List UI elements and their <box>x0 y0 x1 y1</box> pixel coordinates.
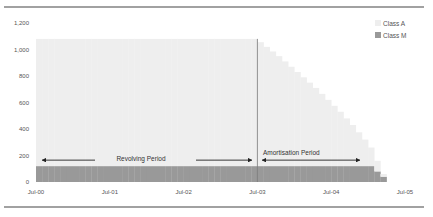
x-tick-label: Jul-04 <box>323 189 340 195</box>
bar-class-m <box>264 166 270 182</box>
bar-class-m <box>362 166 368 182</box>
bar-class-a <box>251 39 257 166</box>
bar-class-a <box>202 39 208 166</box>
bar-class-a <box>116 39 122 166</box>
bar-class-m <box>165 166 171 182</box>
bar-class-m <box>227 166 233 182</box>
bar-class-m <box>368 166 374 182</box>
y-tick-label: 800 <box>19 73 30 79</box>
bar-class-m <box>257 166 263 182</box>
bar-class-m <box>245 166 251 182</box>
bar-class-a <box>368 148 374 167</box>
bar-class-a <box>128 39 134 166</box>
amortisation-period-label: Amortisation Period <box>263 149 320 156</box>
bar-class-a <box>325 100 331 166</box>
bar-class-a <box>141 39 147 166</box>
x-tick-label: Jul-01 <box>102 189 119 195</box>
bar-class-a <box>239 39 245 166</box>
bar-class-m <box>171 166 177 182</box>
bar-class-a <box>98 39 104 166</box>
bar-class-m <box>288 166 294 182</box>
bar-class-a <box>184 39 190 166</box>
bar-class-a <box>196 39 202 166</box>
bar-class-m <box>116 166 122 182</box>
bar-class-m <box>319 166 325 182</box>
bar-class-m <box>36 166 42 182</box>
y-axis: 02004006008001,0001,200 <box>14 20 30 185</box>
bar-class-m <box>141 166 147 182</box>
bar-class-a <box>122 39 128 166</box>
legend-swatch-class-m <box>375 32 381 38</box>
y-tick-label: 400 <box>19 126 30 132</box>
y-tick-label: 0 <box>26 179 30 185</box>
bar-class-m <box>147 166 153 182</box>
x-tick-label: Jul-02 <box>175 189 192 195</box>
x-tick-label: Jul-03 <box>249 189 266 195</box>
bar-class-a <box>159 39 165 166</box>
bar-class-m <box>196 166 202 182</box>
bar-class-m <box>214 166 220 182</box>
bar-class-a <box>54 39 60 166</box>
bar-class-m <box>98 166 104 182</box>
y-tick-label: 1,200 <box>14 20 30 26</box>
revolving-period-label: Revolving Period <box>116 155 166 163</box>
bar-class-a <box>61 39 67 166</box>
bar-class-m <box>54 166 60 182</box>
bar-class-a <box>67 39 73 166</box>
y-tick-label: 200 <box>19 153 30 159</box>
legend-swatch-class-a <box>375 20 381 26</box>
bar-class-a <box>73 39 79 166</box>
bar-class-m <box>251 166 257 182</box>
bar-class-m <box>374 171 380 182</box>
bar-class-a <box>380 174 386 177</box>
bar-class-a <box>177 39 183 166</box>
bar-class-m <box>128 166 134 182</box>
y-tick-label: 1,000 <box>14 47 30 53</box>
bar-class-a <box>171 39 177 166</box>
bar-class-m <box>356 166 362 182</box>
bar-class-a <box>245 39 251 166</box>
bar-class-a <box>214 39 220 166</box>
bar-class-m <box>380 177 386 182</box>
bar-class-a <box>165 39 171 166</box>
bar-class-a <box>319 94 325 166</box>
bar-class-m <box>337 166 343 182</box>
bar-class-m <box>294 166 300 182</box>
bar-class-m <box>184 166 190 182</box>
bar-class-m <box>61 166 67 182</box>
y-tick-label: 600 <box>19 100 30 106</box>
legend-label-class-a: Class A <box>383 20 406 27</box>
bar-class-m <box>73 166 79 182</box>
bar-class-m <box>122 166 128 182</box>
bar-class-m <box>104 166 110 182</box>
bar-class-m <box>208 166 214 182</box>
bar-class-m <box>276 166 282 182</box>
x-tick-label: Jul-00 <box>28 189 45 195</box>
bar-class-m <box>239 166 245 182</box>
bar-class-m <box>313 166 319 182</box>
bar-class-a <box>356 132 362 166</box>
bar-class-m <box>233 166 239 182</box>
bar-class-m <box>159 166 165 182</box>
bar-class-m <box>91 166 97 182</box>
bar-class-a <box>48 39 54 166</box>
legend: Class A Class M <box>375 20 406 39</box>
bar-class-m <box>190 166 196 182</box>
bar-class-a <box>337 112 343 166</box>
bar-class-m <box>282 166 288 182</box>
bar-class-m <box>325 166 331 182</box>
bar-class-m <box>42 166 48 182</box>
legend-label-class-m: Class M <box>383 32 406 39</box>
bar-class-a <box>190 39 196 166</box>
bar-class-m <box>202 166 208 182</box>
bar-class-m <box>307 166 313 182</box>
x-tick-label: Jul-05 <box>397 189 414 195</box>
bar-class-a <box>208 39 214 166</box>
bar-class-m <box>300 166 306 182</box>
bar-class-a <box>233 39 239 166</box>
bar-class-m <box>134 166 140 182</box>
bar-class-m <box>221 166 227 182</box>
bar-class-a <box>91 39 97 166</box>
bar-class-a <box>331 106 337 166</box>
bar-class-m <box>110 166 116 182</box>
